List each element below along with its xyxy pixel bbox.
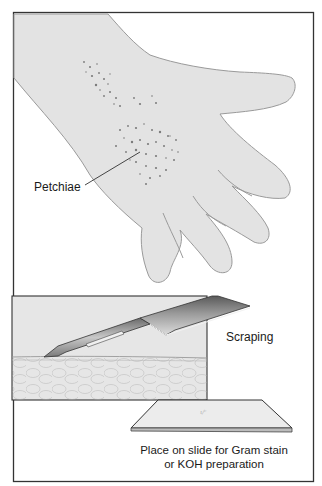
slide-caption: Place on slide for Gram stain or KOH pre… (120, 443, 308, 471)
glass-slide: ι/ᶜ (131, 400, 292, 432)
medical-illustration: ι/ᶜ Petchiae Scraping Place on slide for… (0, 0, 322, 486)
illustration-canvas: ι/ᶜ (0, 0, 322, 486)
caption-line-1: Place on slide for Gram stain (120, 443, 308, 457)
svg-text:ι/ᶜ: ι/ᶜ (200, 408, 207, 415)
caption-line-2: or KOH preparation (120, 457, 308, 471)
petchiae-label: Petchiae (34, 180, 81, 194)
scraping-label: Scraping (226, 330, 273, 344)
